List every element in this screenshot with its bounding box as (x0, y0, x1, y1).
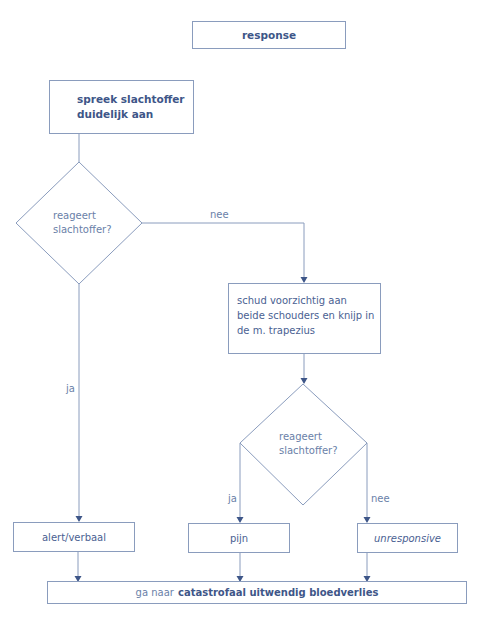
final-step-bleeding: ga naar catastrofaal uitwendig bloedverl… (47, 581, 467, 604)
edge-label-d1-yes: ja (66, 383, 75, 395)
connector-decision1-no (142, 223, 304, 282)
title-node-label: response (242, 28, 296, 43)
outcome-pain: pijn (188, 523, 290, 553)
step2-line3: de m. trapezius (237, 323, 380, 338)
step-speak-to-victim: spreek slachtoffer duidelijk aan (49, 80, 194, 134)
outcome-pain-label: pijn (230, 531, 248, 546)
title-node-response: response (192, 21, 346, 49)
decision1-line2: slachtoffer? (53, 223, 111, 237)
decision1-text: reageert slachtoffer? (53, 209, 111, 237)
decision1-line1: reageert (53, 209, 111, 223)
step1-line1: spreek slachtoffer (77, 92, 193, 107)
outcome-unresponsive: unresponsive (357, 523, 458, 553)
final-emphasis: catastrofaal uitwendig bloedverlies (178, 585, 378, 600)
edge-label-d1-no: nee (210, 209, 229, 221)
outcome-alert-label: alert/verbaal (42, 530, 106, 545)
outcome-alert-verbal: alert/verbaal (13, 522, 135, 552)
flowchart-canvas: response spreek slachtoffer duidelijk aa… (0, 0, 484, 620)
edge-label-d2-yes: ja (228, 493, 237, 505)
step2-line1: schud voorzichtig aan (237, 293, 380, 308)
step2-line2: beide schouders en knijp in (237, 308, 380, 323)
decision2-text: reageert slachtoffer? (279, 430, 337, 458)
edge-label-d2-no: nee (371, 493, 390, 505)
final-prefix: ga naar (136, 585, 174, 600)
arrowhead-icon (301, 378, 308, 384)
step-shake-shoulders: schud voorzichtig aan beide schouders en… (228, 283, 381, 354)
step1-line2: duidelijk aan (77, 107, 193, 122)
outcome-unresponsive-label: unresponsive (374, 531, 441, 546)
decision2-line2: slachtoffer? (279, 444, 337, 458)
decision2-line1: reageert (279, 430, 337, 444)
